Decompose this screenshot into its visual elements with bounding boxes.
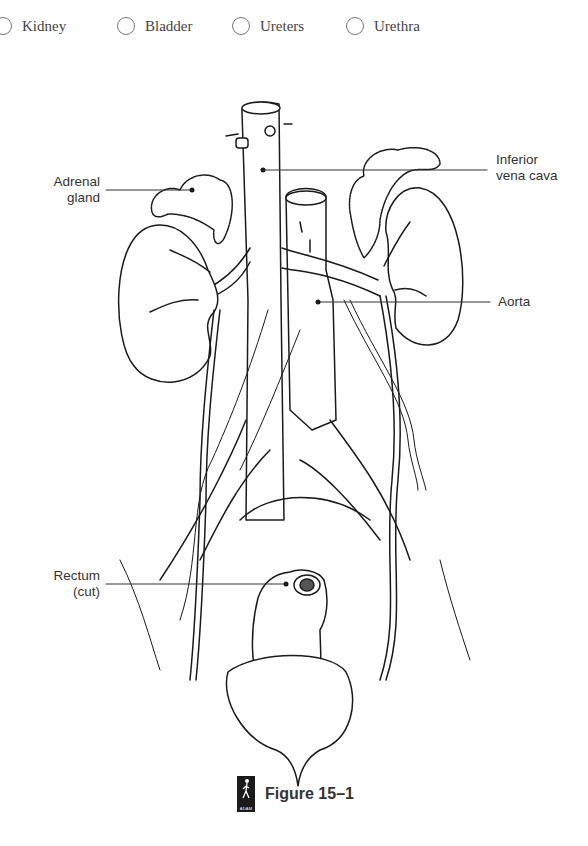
right-ureter-drawing bbox=[380, 296, 394, 680]
label-line: vena cava bbox=[496, 168, 558, 184]
label-line: Inferior bbox=[496, 152, 558, 168]
left-kidney-drawing bbox=[119, 225, 218, 382]
inferior-vena-cava-drawing bbox=[226, 102, 292, 520]
bladder-drawing bbox=[226, 656, 352, 787]
label-aorta: Aorta bbox=[498, 294, 530, 310]
figure-number: Figure 15–1 bbox=[265, 785, 354, 803]
figure-caption: ADAM Figure 15–1 bbox=[237, 776, 354, 812]
label-line: gland bbox=[30, 190, 100, 206]
label-line: (cut) bbox=[30, 584, 100, 600]
label-line: Adrenal bbox=[30, 174, 100, 190]
label-rectum: Rectum (cut) bbox=[30, 568, 100, 600]
aorta-drawing bbox=[286, 189, 336, 431]
logo-text: ADAM bbox=[237, 806, 255, 811]
label-line: Rectum bbox=[30, 568, 100, 584]
label-adrenal-gland: Adrenal gland bbox=[30, 174, 100, 206]
label-inferior-vena-cava: Inferior vena cava bbox=[496, 152, 558, 184]
right-kidney-drawing bbox=[384, 188, 463, 345]
adam-logo-icon: ADAM bbox=[237, 776, 255, 812]
urinary-system-illustration bbox=[0, 0, 588, 846]
walking-figure-icon bbox=[237, 776, 255, 806]
